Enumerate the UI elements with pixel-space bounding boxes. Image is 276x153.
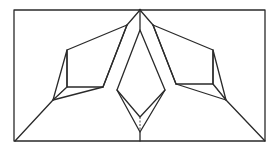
left-long-edge <box>127 10 140 25</box>
right-flap-lower-edge <box>176 84 226 100</box>
right-long-edge <box>140 10 153 25</box>
right-diagonal-crease <box>226 100 265 141</box>
center-kite-base <box>117 90 165 132</box>
center-kite <box>117 10 165 141</box>
fold-diagram <box>0 0 276 153</box>
left-flap-face <box>67 25 127 87</box>
apex-point <box>139 9 142 12</box>
left-flap <box>15 10 140 141</box>
left-inner-edge <box>103 25 127 87</box>
right-flap-side <box>213 50 226 100</box>
right-flap-face <box>153 25 213 84</box>
left-flap-side <box>53 50 67 100</box>
left-diagonal-crease <box>15 100 53 141</box>
